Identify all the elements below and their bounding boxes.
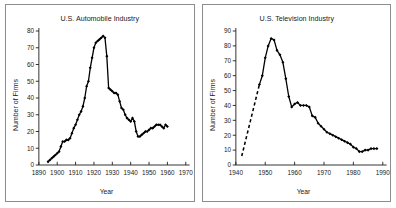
y-tick-label: 10 (223, 146, 230, 153)
x-tick-label: 1960 (160, 169, 175, 176)
x-tick-label: 1910 (68, 169, 83, 176)
y-tick-label: 50 (27, 78, 34, 85)
y-tick-label: 60 (27, 61, 34, 68)
y-axis-label: Number of Firms (208, 78, 215, 131)
data-line-dashed (241, 85, 259, 156)
data-markers (47, 34, 169, 163)
data-line (48, 36, 167, 162)
x-tick-label: 1970 (179, 169, 194, 176)
y-tick-label: 80 (223, 42, 230, 49)
data-line (259, 38, 377, 151)
data-point-marker (260, 74, 263, 77)
x-tick-label: 1890 (32, 169, 47, 176)
chart-panel-television: U.S. Television Industry 010203040506070… (202, 4, 392, 202)
x-tick-label: 1980 (346, 169, 361, 176)
x-tick-label: 1900 (50, 169, 65, 176)
x-tick-label: 1960 (287, 169, 302, 176)
y-axis-ticks: 0102030405060708090 (223, 27, 235, 168)
y-tick-label: 40 (27, 94, 34, 101)
y-tick-label: 20 (27, 128, 34, 135)
data-point-marker (301, 104, 304, 107)
y-tick-label: 10 (27, 145, 34, 152)
y-tick-label: 30 (223, 117, 230, 124)
data-markers (257, 37, 378, 153)
x-tick-label: 1940 (228, 169, 243, 176)
data-point-marker (375, 147, 378, 150)
y-tick-label: 0 (227, 161, 231, 168)
chart-title: U.S. Automobile Industry (60, 14, 139, 23)
x-tick-label: 1990 (375, 169, 390, 176)
chart-title: U.S. Television Industry (259, 14, 334, 23)
y-axis-label: Number of Firms (12, 78, 19, 131)
y-tick-label: 90 (223, 27, 230, 34)
y-tick-label: 50 (223, 87, 230, 94)
x-tick-label: 1920 (87, 169, 102, 176)
figure-two-panel-charts: U.S. Automobile Industry 010203040506070… (0, 0, 396, 208)
y-tick-label: 70 (223, 57, 230, 64)
data-point-marker (287, 95, 290, 98)
chart-panel-automobile: U.S. Automobile Industry 010203040506070… (5, 4, 195, 202)
y-tick-label: 80 (27, 27, 34, 34)
data-point-marker (105, 55, 108, 58)
x-tick-label: 1970 (316, 169, 331, 176)
y-tick-label: 40 (223, 102, 230, 109)
y-tick-label: 30 (27, 111, 34, 118)
x-axis-ticks: 194019501960197019801990 (228, 162, 389, 176)
x-axis-label: Year (296, 188, 310, 195)
x-tick-label: 1940 (124, 169, 139, 176)
axis-lines (235, 28, 386, 165)
x-axis-label: Year (100, 188, 114, 195)
y-tick-label: 0 (30, 161, 34, 168)
y-tick-label: 70 (27, 44, 34, 51)
x-tick-label: 1950 (258, 169, 273, 176)
data-point-marker (91, 56, 94, 59)
data-point-marker (83, 96, 86, 99)
y-tick-label: 20 (223, 132, 230, 139)
y-axis-ticks: 01020304050607080 (27, 27, 39, 168)
x-tick-label: 1950 (142, 169, 157, 176)
data-point-marker (372, 147, 375, 150)
television-industry-chart: U.S. Television Industry 010203040506070… (203, 5, 391, 201)
data-point-marker (263, 56, 266, 59)
automobile-industry-chart: U.S. Automobile Industry 010203040506070… (6, 5, 194, 201)
data-point-marker (284, 77, 287, 80)
x-axis-ticks: 189019001910192019301940195019601970 (32, 162, 193, 176)
data-point-marker (118, 100, 121, 103)
data-point-marker (89, 66, 92, 69)
x-tick-label: 1930 (105, 169, 120, 176)
y-tick-label: 60 (223, 72, 230, 79)
